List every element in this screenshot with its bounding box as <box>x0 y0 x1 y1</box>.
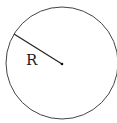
radius-line <box>14 34 62 64</box>
center-point <box>61 63 64 66</box>
radius-label: R <box>26 51 38 69</box>
circle-diagram: R <box>0 0 117 123</box>
